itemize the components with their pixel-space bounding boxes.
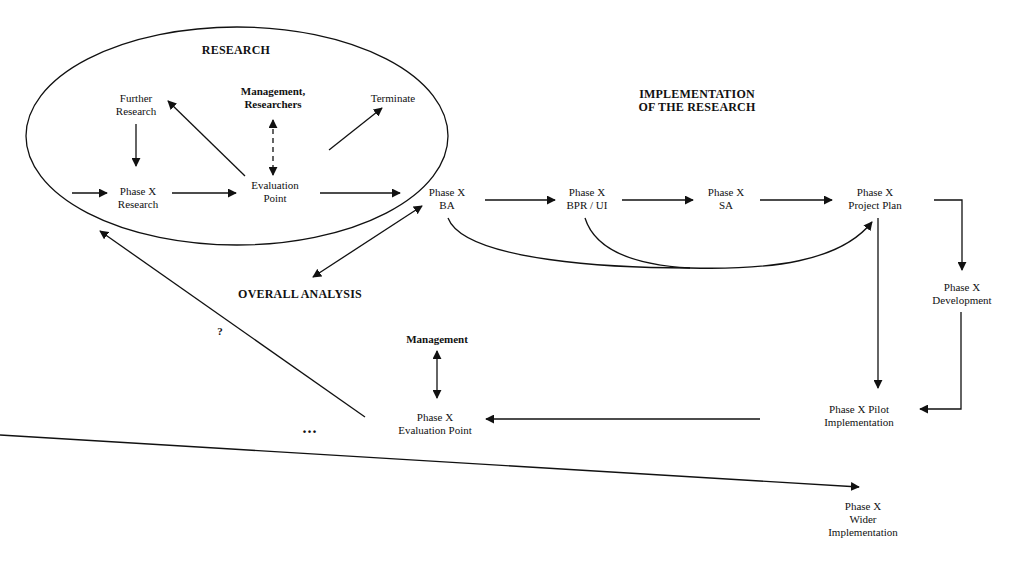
edge-evalpoint-research bbox=[100, 231, 365, 417]
node-terminate: Terminate bbox=[371, 92, 415, 105]
node-phase-bpr-line1: Phase X bbox=[567, 186, 608, 199]
node-evaluation-point-line1: Evaluation bbox=[251, 179, 299, 192]
node-phase-research-line2: Research bbox=[118, 198, 158, 211]
node-phase-pilot-line2: Implementation bbox=[824, 416, 894, 429]
node-phase-sa-line1: Phase X bbox=[708, 186, 744, 199]
edge-eval-further bbox=[168, 101, 245, 176]
node-phase-eval-point-line1: Phase X bbox=[398, 411, 472, 424]
diagram-canvas bbox=[0, 0, 1025, 569]
ellipsis-annotation: ... bbox=[303, 421, 318, 434]
node-phase-development-line2: Development bbox=[932, 294, 991, 307]
node-further-research-line2: Research bbox=[116, 105, 156, 118]
question-mark-annotation: ? bbox=[217, 325, 223, 338]
node-further-research: Further Research bbox=[116, 92, 156, 118]
node-phase-development-line1: Phase X bbox=[932, 281, 991, 294]
node-evaluation-point: Evaluation Point bbox=[251, 179, 299, 205]
edge-ba-plan-curve bbox=[448, 218, 872, 268]
node-phase-project-plan-line2: Project Plan bbox=[848, 199, 901, 212]
implementation-group-title: IMPLEMENTATION OF THE RESEARCH bbox=[638, 88, 755, 114]
node-management-researchers: Management, Researchers bbox=[241, 85, 305, 111]
node-phase-bpr: Phase X BPR / UI bbox=[567, 186, 608, 212]
node-phase-ba-line1: Phase X bbox=[429, 186, 465, 199]
node-phase-project-plan: Phase X Project Plan bbox=[848, 186, 901, 212]
node-mgmt-researchers-line2: Researchers bbox=[241, 98, 305, 111]
node-management: Management bbox=[406, 333, 468, 346]
node-phase-sa: Phase X SA bbox=[708, 186, 744, 212]
node-mgmt-researchers-line1: Management, bbox=[241, 85, 305, 98]
node-phase-ba-line2: BA bbox=[429, 199, 465, 212]
research-ellipse bbox=[26, 27, 448, 245]
node-phase-eval-point: Phase X Evaluation Point bbox=[398, 411, 472, 437]
edge-eval-terminate bbox=[329, 108, 382, 150]
node-further-research-line1: Further bbox=[116, 92, 156, 105]
node-phase-wider-line2: Wider bbox=[828, 513, 898, 526]
node-phase-wider-line1: Phase X bbox=[828, 500, 898, 513]
node-phase-wider-line3: Implementation bbox=[828, 526, 898, 539]
node-phase-development: Phase X Development bbox=[932, 281, 991, 307]
node-phase-pilot-line1: Phase X Pilot bbox=[824, 403, 894, 416]
node-phase-research-line1: Phase X bbox=[118, 185, 158, 198]
edge-bpr-plan-curve bbox=[585, 218, 690, 268]
research-group-title: RESEARCH bbox=[202, 44, 270, 57]
node-evaluation-point-line2: Point bbox=[251, 192, 299, 205]
node-phase-project-plan-line1: Phase X bbox=[848, 186, 901, 199]
node-phase-eval-point-line2: Evaluation Point bbox=[398, 424, 472, 437]
node-phase-bpr-line2: BPR / UI bbox=[567, 199, 608, 212]
node-phase-sa-line2: SA bbox=[708, 199, 744, 212]
edge-ba-overall bbox=[313, 206, 422, 277]
node-phase-pilot: Phase X Pilot Implementation bbox=[824, 403, 894, 429]
node-phase-research: Phase X Research bbox=[118, 185, 158, 211]
overall-analysis-title: OVERALL ANALYSIS bbox=[238, 288, 362, 301]
edge-pilot-wider bbox=[0, 435, 859, 487]
implementation-title-line2: OF THE RESEARCH bbox=[638, 101, 755, 114]
node-phase-wider: Phase X Wider Implementation bbox=[828, 500, 898, 539]
edge-plan-development bbox=[934, 200, 962, 270]
node-phase-ba: Phase X BA bbox=[429, 186, 465, 212]
edge-development-pilot bbox=[920, 312, 961, 409]
